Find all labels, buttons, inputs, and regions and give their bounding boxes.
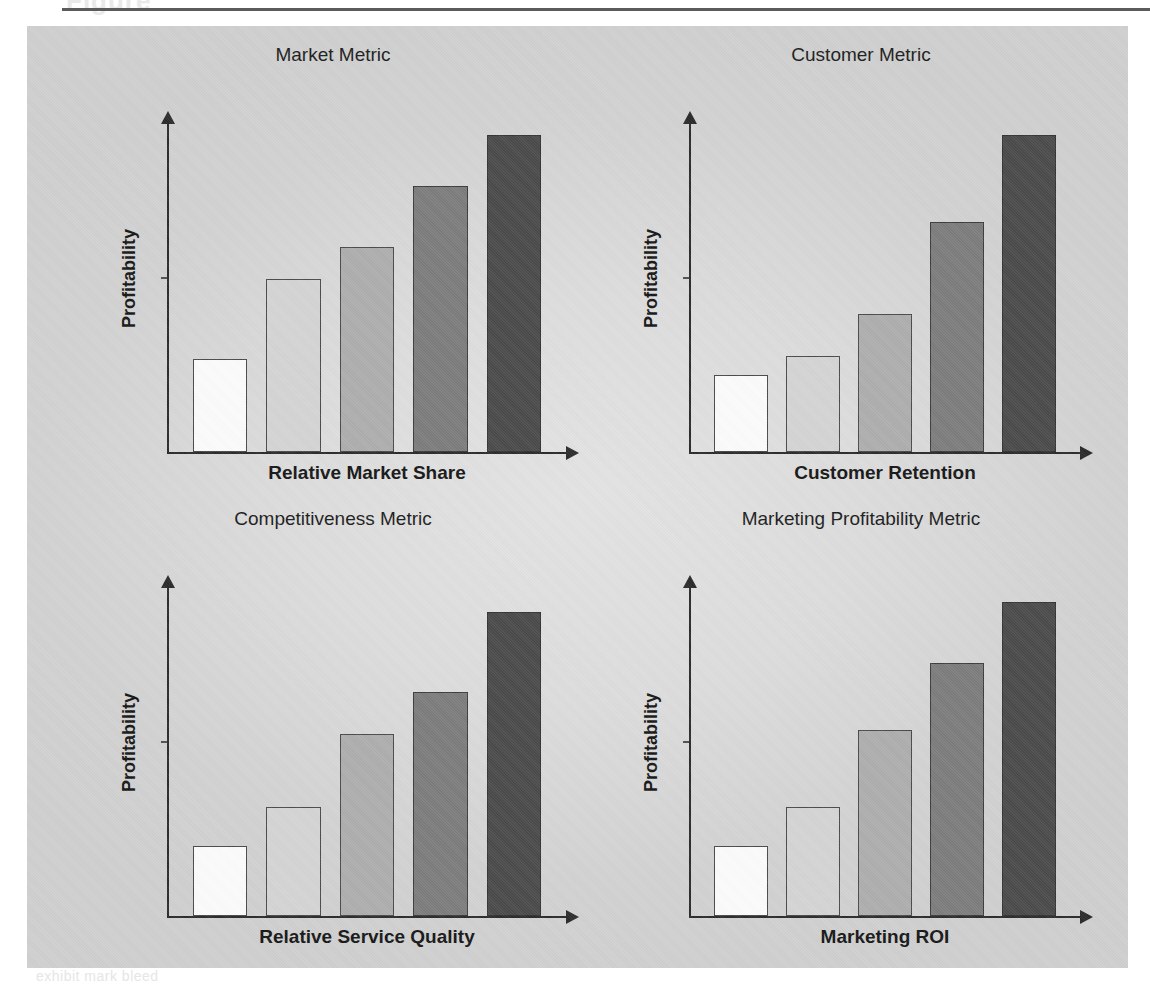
- y-axis: [167, 586, 169, 916]
- y-axis-label: Profitability: [119, 199, 140, 359]
- bar: [266, 279, 320, 452]
- bar: [858, 314, 911, 452]
- figure-panel: Market Metric ProfitabilityRelative Mark…: [27, 26, 1128, 968]
- bar-shadow: [983, 669, 990, 921]
- bar-shadow: [911, 736, 918, 921]
- bar: [413, 186, 467, 452]
- bar: [413, 692, 467, 916]
- bar-shadow: [911, 320, 918, 457]
- x-axis-arrow-icon: [566, 446, 579, 460]
- bar: [487, 135, 541, 452]
- bar: [1002, 602, 1055, 916]
- bar: [858, 730, 911, 916]
- chart-competitiveness-metric: Competitiveness Metric ProfitabilityRela…: [75, 508, 591, 958]
- footer-ghost-text: exhibit mark bleed: [36, 968, 159, 984]
- bar: [786, 356, 839, 452]
- plot-area: ProfitabilityMarketing ROI: [611, 508, 1111, 958]
- x-axis: [689, 452, 1081, 454]
- x-axis-arrow-icon: [566, 910, 579, 924]
- bar-shadow: [767, 381, 774, 457]
- bar: [714, 375, 767, 452]
- bar: [930, 222, 983, 452]
- y-axis-tick: [683, 277, 689, 279]
- bar-shadow: [246, 852, 253, 921]
- bar-shadow: [839, 362, 846, 457]
- y-axis-arrow-icon: [161, 111, 175, 124]
- x-axis: [167, 452, 567, 454]
- y-axis-label: Profitability: [641, 199, 662, 359]
- chart-marketing-profitability-metric: Marketing Profitability Metric Profitabi…: [611, 508, 1111, 958]
- bar: [266, 807, 320, 916]
- y-axis-tick: [161, 277, 167, 279]
- bar-shadow: [839, 813, 846, 921]
- bar-shadow: [467, 192, 474, 457]
- bar-shadow: [983, 228, 990, 457]
- y-axis-label: Profitability: [119, 663, 140, 823]
- bar: [1002, 135, 1055, 452]
- bar: [487, 612, 541, 916]
- y-axis-tick: [683, 741, 689, 743]
- bar: [786, 807, 839, 916]
- bar-shadow: [393, 740, 400, 921]
- bar-shadow: [467, 698, 474, 921]
- y-axis-tick: [161, 741, 167, 743]
- y-axis-arrow-icon: [161, 575, 175, 588]
- chart-market-metric: Market Metric ProfitabilityRelative Mark…: [75, 44, 591, 494]
- bar: [340, 734, 394, 916]
- bar-shadow: [320, 813, 327, 921]
- y-axis-arrow-icon: [683, 111, 697, 124]
- bar: [193, 359, 247, 452]
- bar-shadow: [540, 141, 547, 457]
- bar-shadow: [320, 285, 327, 457]
- figure-page: Figure Market Metric ProfitabilityRelati…: [0, 0, 1150, 990]
- bar-shadow: [1055, 141, 1062, 457]
- x-axis: [689, 916, 1081, 918]
- y-axis-label: Profitability: [641, 663, 662, 823]
- bar: [930, 663, 983, 916]
- x-axis-label: Marketing ROI: [689, 926, 1081, 948]
- bar-shadow: [1055, 608, 1062, 921]
- y-axis: [167, 122, 169, 452]
- y-axis: [689, 122, 691, 452]
- header-rule: [62, 8, 1150, 11]
- bar: [340, 247, 394, 452]
- plot-area: ProfitabilityCustomer Retention: [611, 44, 1111, 494]
- bar: [193, 846, 247, 916]
- bar-shadow: [767, 852, 774, 921]
- x-axis: [167, 916, 567, 918]
- chart-customer-metric: Customer Metric ProfitabilityCustomer Re…: [611, 44, 1111, 494]
- y-axis: [689, 586, 691, 916]
- bar-shadow: [540, 618, 547, 921]
- x-axis-arrow-icon: [1080, 910, 1093, 924]
- plot-area: ProfitabilityRelative Service Quality: [75, 508, 591, 958]
- bar-shadow: [393, 253, 400, 457]
- plot-area: ProfitabilityRelative Market Share: [75, 44, 591, 494]
- x-axis-label: Customer Retention: [689, 462, 1081, 484]
- bar-shadow: [246, 365, 253, 457]
- y-axis-arrow-icon: [683, 575, 697, 588]
- x-axis-label: Relative Service Quality: [167, 926, 567, 948]
- bar: [714, 846, 767, 916]
- x-axis-arrow-icon: [1080, 446, 1093, 460]
- x-axis-label: Relative Market Share: [167, 462, 567, 484]
